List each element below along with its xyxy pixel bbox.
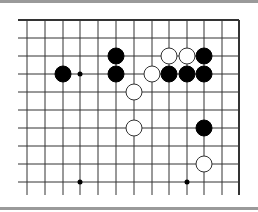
black-stone[interactable] bbox=[108, 48, 124, 64]
black-stone[interactable] bbox=[55, 66, 71, 82]
black-stone[interactable] bbox=[196, 120, 212, 136]
black-stone[interactable] bbox=[196, 66, 212, 82]
white-stone[interactable] bbox=[144, 66, 160, 82]
go-board[interactable] bbox=[0, 0, 258, 212]
white-stone[interactable] bbox=[126, 120, 142, 136]
white-stone[interactable] bbox=[126, 84, 142, 100]
star-point bbox=[78, 180, 83, 185]
white-stone[interactable] bbox=[196, 156, 212, 172]
black-stone[interactable] bbox=[179, 66, 195, 82]
white-stone[interactable] bbox=[161, 48, 177, 64]
white-stone[interactable] bbox=[179, 48, 195, 64]
star-point bbox=[185, 180, 190, 185]
black-stone[interactable] bbox=[161, 66, 177, 82]
star-point bbox=[78, 72, 83, 77]
black-stone[interactable] bbox=[108, 66, 124, 82]
black-stone[interactable] bbox=[196, 48, 212, 64]
